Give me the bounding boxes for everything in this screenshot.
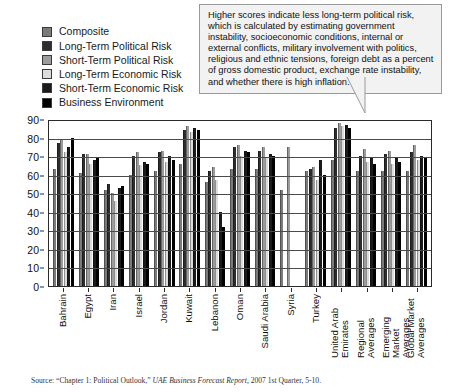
legend-item: Short-Term Political Risk [42, 53, 183, 66]
x-axis-tick-label: Egypt [83, 294, 93, 319]
x-axis-cell: Egypt [75, 288, 100, 366]
legend-item-label: Business Environment [59, 97, 163, 108]
legend-swatch-icon [42, 55, 52, 65]
legend-item: Short-Term Economic Risk [42, 82, 183, 95]
y-axis-tick-mark [40, 231, 44, 232]
bar-group [353, 121, 378, 286]
x-axis-tick-label: Regional Averages [356, 294, 378, 358]
x-axis-tick-mark [417, 288, 418, 292]
y-axis-tick-label: 40 [27, 208, 39, 219]
x-axis-tick-mark [316, 288, 317, 292]
legend-swatch-icon [42, 41, 52, 51]
source-suffix: 2007 1st Quarter, 5-10. [249, 376, 321, 385]
bar-group [51, 121, 76, 286]
x-axis-tick-label: Oman [235, 294, 245, 320]
source-title: UAE Business Forecast Report, [152, 376, 248, 385]
chart-legend: CompositeLong-Term Political RiskShort-T… [42, 25, 183, 109]
y-axis-tick-label: 80 [27, 133, 39, 144]
gridline [49, 268, 431, 269]
x-axis-cell: Turkey [303, 288, 328, 366]
gridline [49, 231, 431, 232]
legend-item: Long-Term Economic Risk [42, 68, 183, 81]
y-axis-tick-label: 30 [27, 226, 39, 237]
x-axis-cell: United Arab Emirates [329, 288, 354, 366]
y-axis-tick-mark [40, 287, 44, 288]
x-axis-cell: Israel [126, 288, 151, 366]
gridline [49, 250, 431, 251]
bar-group [253, 121, 278, 286]
x-axis-tick-mark [240, 288, 241, 292]
bar-group [101, 121, 126, 286]
y-axis-tick-mark [40, 194, 44, 195]
bar-group [76, 121, 101, 286]
x-axis-cell: Regional Averages [354, 288, 379, 366]
x-axis-tick-label: Jordan [159, 294, 169, 323]
x-axis-tick-label: Emerging Market Averages [381, 294, 403, 358]
x-axis-tick-label: Saudi Arabia [260, 294, 270, 348]
gridline [49, 213, 431, 214]
y-axis-tick-mark [40, 138, 44, 139]
y-axis-tick-mark [40, 268, 44, 269]
bar [398, 162, 401, 286]
bar-group [379, 121, 404, 286]
bar [280, 190, 283, 286]
y-axis: 0102030405060708090 [0, 120, 44, 287]
legend-item: Long-Term Political Risk [42, 39, 183, 52]
y-axis-tick-label: 90 [27, 115, 39, 126]
source-note: Source: “Chapter 1: Political Outlook,” … [31, 376, 321, 385]
bar [197, 130, 200, 286]
y-axis-tick-label: 60 [27, 170, 39, 181]
gridline [49, 194, 431, 195]
bar [287, 147, 290, 286]
bar [96, 158, 99, 286]
legend-swatch-icon [42, 98, 52, 108]
gridline [49, 176, 431, 177]
bar-group [152, 121, 177, 286]
bar [172, 160, 175, 286]
y-axis-tick-mark [40, 175, 44, 176]
legend-swatch-icon [42, 83, 52, 93]
callout-text: Higher scores indicate less long-term po… [208, 10, 434, 88]
legend-item-label: Composite [59, 26, 109, 37]
bar [424, 158, 427, 286]
x-axis-cell: Emerging Market Averages [379, 288, 404, 366]
bar-group [303, 121, 328, 286]
x-axis-tick-label: United Arab Emirates [330, 294, 352, 358]
y-axis-tick-mark [40, 212, 44, 213]
legend-item-label: Long-Term Economic Risk [59, 69, 182, 80]
y-axis-tick-mark [40, 120, 44, 121]
y-axis-tick-label: 0 [33, 282, 39, 293]
x-axis-tick-mark [215, 288, 216, 292]
x-axis-tick-label: Global Market Averages [406, 294, 428, 358]
legend-item-label: Short-Term Economic Risk [59, 83, 183, 94]
x-axis-tick-mark [291, 288, 292, 292]
x-axis-cell: Saudi Arabia [253, 288, 278, 366]
legend-item-label: Long-Term Political Risk [59, 41, 172, 52]
x-axis-tick-label: Iran [108, 294, 118, 311]
x-axis-tick-mark [113, 288, 114, 292]
x-axis: BahrainEgyptIranIsraelJordanKuwaitLebano… [48, 288, 432, 366]
y-axis-tick-label: 70 [27, 152, 39, 163]
x-axis-cell: Bahrain [50, 288, 75, 366]
x-axis-cell: Kuwait [177, 288, 202, 366]
y-axis-tick-label: 50 [27, 189, 39, 200]
x-axis-tick-label: Kuwait [184, 294, 194, 323]
bars-container [49, 121, 431, 286]
x-axis-cell: Global Market Averages [405, 288, 430, 366]
x-axis-tick-label: Lebanon [210, 294, 220, 331]
bar-group [227, 121, 252, 286]
gridline [49, 157, 431, 158]
bar-group [127, 121, 152, 286]
y-axis-tick-mark [40, 249, 44, 250]
x-axis-tick-mark [63, 288, 64, 292]
bar-group [202, 121, 227, 286]
x-axis-tick-mark [189, 288, 190, 292]
source-prefix: Source: “Chapter 1: Political Outlook,” [31, 376, 152, 385]
x-axis-tick-mark [164, 288, 165, 292]
x-axis-tick-label: Syria [286, 294, 296, 316]
y-axis-tick-label: 20 [27, 245, 39, 256]
bar-chart-plot-area [48, 120, 432, 287]
x-axis-tick-label: Turkey [311, 294, 321, 323]
bar-group [328, 121, 353, 286]
bar [348, 128, 351, 286]
